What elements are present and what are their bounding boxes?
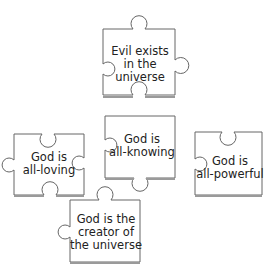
label-line: all-loving: [23, 164, 75, 177]
label-line: Evil exists: [111, 45, 168, 58]
label-line: all-powerful: [196, 168, 264, 181]
piece-label-evil: Evil existsin theuniverse: [106, 36, 174, 92]
piece-label-powerful: God isall-powerful: [196, 145, 264, 191]
piece-label-creator: God is thecreator ofthe universe: [70, 205, 142, 259]
piece-label-loving: God isall-loving: [14, 138, 84, 190]
label-line: God is the: [70, 213, 142, 226]
label-line: all-knowing: [109, 146, 175, 159]
piece-label-knowing: God isall-knowing: [107, 120, 177, 172]
label-line: universe: [111, 71, 168, 84]
label-line: the universe: [70, 239, 142, 252]
label-line: in the: [111, 58, 168, 71]
label-line: creator of: [70, 226, 142, 239]
